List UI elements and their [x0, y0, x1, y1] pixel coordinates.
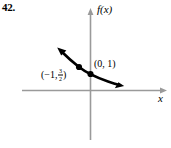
fraction-denominator: 2 — [58, 76, 62, 82]
y-axis-label: f(x) — [97, 3, 112, 15]
figure-container: 42. f(x) x (−1, 3 2 ) (0, — [0, 0, 171, 148]
point-label-open: (−1, — [41, 69, 57, 80]
point-label-minus-one: (−1, 3 2 ) — [41, 67, 66, 81]
x-axis — [22, 88, 167, 94]
fraction-three-halves: 3 2 — [58, 68, 63, 82]
graph-canvas — [0, 0, 171, 148]
fraction-numerator: 3 — [58, 68, 62, 74]
x-axis-label: x — [158, 92, 163, 104]
point-label-y-intercept: (0, 1) — [94, 58, 116, 69]
data-point-y-intercept — [87, 71, 93, 77]
y-axis-arrowhead — [88, 8, 94, 15]
data-point-minus-one — [76, 64, 82, 70]
point-label-close: ) — [63, 69, 66, 80]
